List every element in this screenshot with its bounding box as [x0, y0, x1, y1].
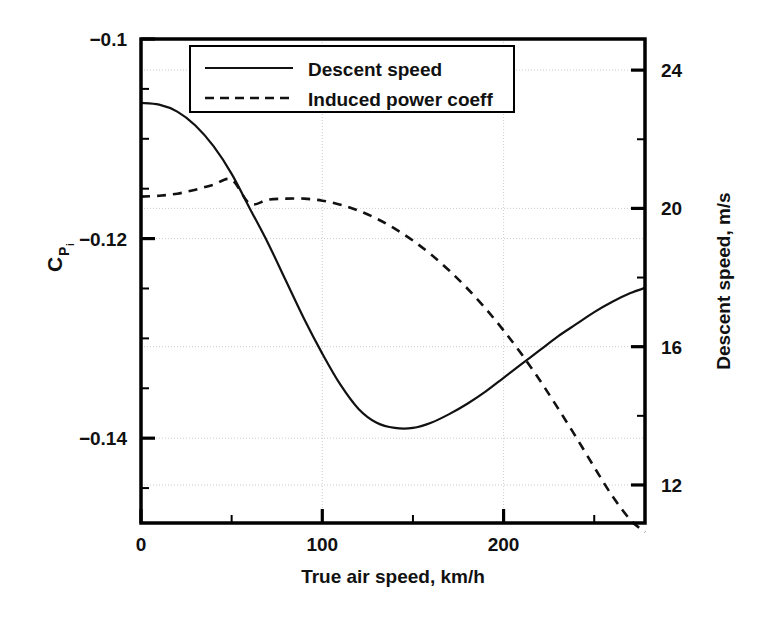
chart-figure: 0100200−0.1−0.12−0.1424201612 True air s… [0, 0, 761, 617]
y-right-tick-label-0: 24 [661, 60, 683, 81]
chart-canvas: 0100200−0.1−0.12−0.1424201612 True air s… [0, 0, 761, 617]
series-lines [141, 103, 645, 532]
legend-label-descent-speed: Descent speed [308, 59, 442, 80]
left-axis-title-subsub: i [65, 243, 76, 246]
left-axis-title: C P i [43, 243, 76, 272]
x-tick-label-2: 200 [488, 534, 520, 555]
x-tick-label-1: 100 [306, 534, 338, 555]
left-axis-title-base: C [43, 257, 66, 272]
x-axis-title: True air speed, km/h [301, 566, 485, 587]
x-tick-label-0: 0 [136, 534, 147, 555]
y-left-tick-label-0: −0.1 [89, 29, 127, 50]
y-right-tick-label-3: 12 [661, 475, 682, 496]
legend: Descent speed Induced power coeff [190, 46, 514, 112]
series-line-2 [141, 179, 645, 532]
y-right-tick-label-1: 20 [661, 198, 682, 219]
right-axis-title: Descent speed, m/s [713, 192, 734, 369]
y-right-tick-label-2: 16 [661, 337, 682, 358]
y-left-tick-label-2: −0.14 [79, 428, 128, 449]
legend-label-induced-power-coeff: Induced power coeff [308, 89, 493, 110]
series-line-1 [141, 103, 645, 429]
left-axis-title-sub: P [56, 247, 72, 256]
y-left-tick-label-1: −0.12 [79, 229, 127, 250]
